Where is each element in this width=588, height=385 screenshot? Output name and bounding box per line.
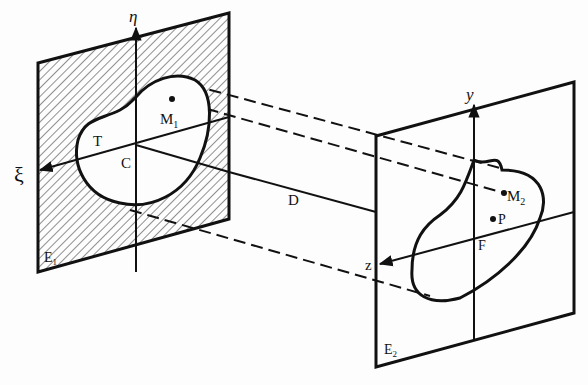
projection-diagram: η ξ T C M1 E1 D y M2 P F z E2 <box>0 0 588 385</box>
plane-e2 <box>376 82 574 367</box>
z-axis <box>380 212 574 264</box>
label-c: C <box>121 155 131 171</box>
label-d: D <box>288 192 299 208</box>
label-p: P <box>498 212 506 227</box>
label-m2: M2 <box>507 188 525 207</box>
plane-e1 <box>38 13 229 272</box>
label-z: z <box>365 257 372 273</box>
label-xi: ξ <box>14 162 24 187</box>
label-y: y <box>464 85 474 104</box>
label-t: T <box>93 133 102 149</box>
diagram-svg: η ξ T C M1 E1 D y M2 P F z E2 <box>0 0 588 385</box>
point-p <box>490 216 496 222</box>
optical-axis-d <box>229 172 376 212</box>
label-eta: η <box>129 7 137 26</box>
label-f: F <box>478 238 486 253</box>
point-m1 <box>169 96 175 102</box>
label-e2: E2 <box>384 342 397 359</box>
contour-e2 <box>412 160 544 301</box>
